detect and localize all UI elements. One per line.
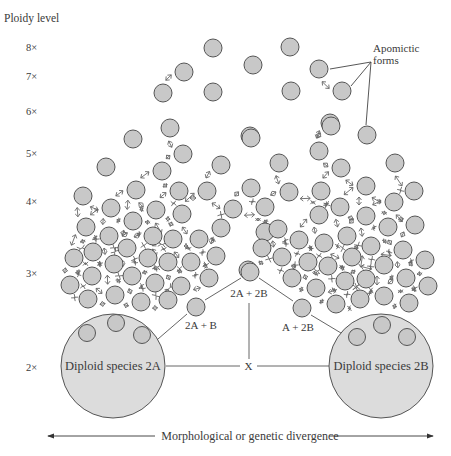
bond-fork <box>335 258 339 259</box>
population-circle <box>310 60 328 78</box>
bond-fork <box>172 143 173 147</box>
bond-fork <box>269 258 273 259</box>
bond-fork <box>382 240 386 241</box>
population-circle <box>315 234 333 252</box>
apomictic-pointer <box>330 62 371 69</box>
population-circle <box>290 231 308 249</box>
population-circle <box>310 206 328 224</box>
inner-circle <box>349 329 366 346</box>
population-circle <box>405 182 423 200</box>
population-circle <box>172 277 190 295</box>
bond <box>300 219 306 227</box>
bond-fork <box>210 171 211 175</box>
bond-fork <box>265 259 269 260</box>
population-circle <box>307 279 325 297</box>
population-circle <box>273 248 291 266</box>
population-circle <box>319 257 337 275</box>
population-circle <box>375 287 393 305</box>
bond-fork <box>370 263 371 267</box>
bond-fork <box>271 241 273 244</box>
population-circle <box>281 38 299 56</box>
bond-fork <box>413 287 414 291</box>
population-circle <box>124 130 142 148</box>
population-circle <box>312 182 330 200</box>
apomictic-label-line2: forms <box>373 54 399 66</box>
bond-fork <box>155 223 156 227</box>
bond-fork <box>119 276 120 280</box>
bond-fork <box>134 263 138 264</box>
bond-fork <box>101 221 103 224</box>
population-circle <box>146 274 164 292</box>
bond-fork <box>315 230 317 233</box>
bond-fork <box>122 236 126 237</box>
population-circle <box>241 263 259 281</box>
population-circle <box>175 63 193 81</box>
population-circle <box>83 267 101 285</box>
population-circle <box>97 158 115 176</box>
bond-fork <box>267 255 269 259</box>
population-circle <box>406 216 424 234</box>
bond-fork <box>221 214 225 215</box>
bond-fork <box>205 174 206 178</box>
population-circle <box>338 227 356 245</box>
population-circles <box>61 38 437 317</box>
bond-fork <box>117 282 121 283</box>
bond-fork <box>389 278 393 279</box>
bond-fork <box>220 211 221 215</box>
bond-fork <box>272 191 276 192</box>
bond-fork <box>163 245 166 248</box>
ploidy-label: 6× <box>26 106 37 117</box>
population-circle <box>270 154 288 172</box>
population-circle <box>269 220 287 238</box>
population-circle <box>357 177 375 195</box>
bond-fork <box>63 270 65 273</box>
bond <box>115 251 116 252</box>
bond <box>168 287 170 289</box>
population-circle <box>159 291 177 309</box>
ploidy-label: 7× <box>26 71 37 82</box>
bond-fork <box>362 233 364 236</box>
population-circle <box>310 142 328 160</box>
bond-fork <box>196 272 197 276</box>
population-circle <box>293 299 311 317</box>
hybrid-label-A+2B: A + 2B <box>282 321 314 333</box>
bond-fork <box>70 242 71 246</box>
population-circle <box>242 129 260 147</box>
bond-fork <box>371 228 375 229</box>
population-circle <box>144 227 162 245</box>
bond-fork <box>103 218 105 221</box>
population-circle <box>357 207 375 225</box>
diploid-species-2B: Diploid species 2B <box>329 314 433 418</box>
bond-fork <box>116 221 120 222</box>
population-circle <box>204 39 222 57</box>
bond-fork <box>266 219 267 223</box>
population-circle <box>333 82 351 100</box>
population-circle <box>173 205 191 223</box>
population-circle <box>65 249 83 267</box>
bond-fork <box>177 267 180 270</box>
bond-fork <box>368 259 372 260</box>
bond-fork <box>314 271 315 275</box>
population-circle <box>212 156 230 174</box>
population-circle <box>127 181 145 199</box>
population-circle <box>282 82 300 100</box>
bond-fork <box>359 228 361 231</box>
bond-fork <box>358 242 359 246</box>
population-circle <box>332 159 350 177</box>
bond-fork <box>334 219 336 223</box>
population-circle <box>123 267 141 285</box>
population-circle <box>200 269 218 287</box>
population-circle <box>161 119 179 137</box>
bond-fork <box>154 306 157 308</box>
bond <box>395 176 402 186</box>
ploidy-label: 3× <box>26 268 37 279</box>
bond-fork <box>131 290 132 294</box>
bond <box>323 172 329 178</box>
bond-fork <box>77 247 81 248</box>
bond-fork <box>358 245 362 246</box>
population-circle <box>362 237 380 255</box>
bond-fork <box>362 256 364 259</box>
bond-fork <box>76 235 77 239</box>
population-circle <box>74 187 92 205</box>
bond-fork <box>152 295 156 296</box>
